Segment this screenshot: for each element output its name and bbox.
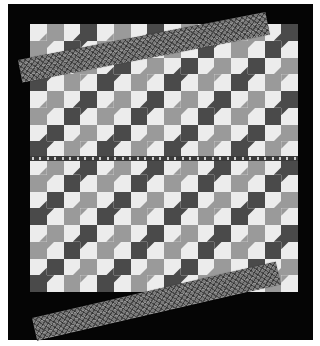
- bow-tie-patch: [30, 175, 47, 192]
- bow-tie-patch: [164, 108, 181, 125]
- bow-tie-patch: [214, 58, 231, 75]
- bow-tie-corner: [140, 268, 148, 276]
- bow-tie-corner: [181, 108, 189, 116]
- light-patch: [131, 259, 148, 276]
- bow-tie-corner: [80, 74, 88, 82]
- bow-tie-corner: [73, 201, 81, 209]
- ruler-tick: [107, 157, 109, 160]
- light-patch: [164, 125, 181, 142]
- light-patch: [147, 108, 164, 125]
- bow-tie-patch: [265, 242, 282, 259]
- bow-tie-patch: [198, 208, 215, 225]
- bow-tie-corner: [73, 134, 81, 142]
- bow-tie-corner: [214, 108, 222, 116]
- light-patch: [147, 175, 164, 192]
- bow-tie-corner: [248, 175, 256, 183]
- bow-tie-patch: [47, 91, 64, 108]
- light-patch: [47, 275, 64, 292]
- bow-tie-patch: [214, 125, 231, 142]
- bow-tie-corner: [207, 268, 215, 276]
- light-patch: [30, 192, 47, 209]
- ruler-tick: [264, 157, 266, 160]
- light-patch: [131, 125, 148, 142]
- bow-tie-corner: [73, 167, 81, 175]
- bow-tie-corner: [207, 167, 215, 175]
- light-patch: [114, 242, 131, 259]
- ruler-tick: [62, 157, 64, 160]
- bow-tie-corner: [47, 175, 55, 183]
- ruler-tick: [92, 157, 94, 160]
- bow-tie-corner: [114, 208, 122, 216]
- bow-tie-corner: [181, 141, 189, 149]
- bow-tie-patch: [147, 125, 164, 142]
- light-patch: [281, 208, 298, 225]
- bow-tie-corner: [140, 67, 148, 75]
- bow-tie-corner: [147, 208, 155, 216]
- light-patch: [97, 91, 114, 108]
- light-patch: [97, 24, 114, 41]
- light-patch: [97, 259, 114, 276]
- bow-tie-corner: [281, 275, 289, 283]
- light-patch: [64, 225, 81, 242]
- bow-tie-corner: [47, 108, 55, 116]
- bow-tie-patch: [231, 74, 248, 91]
- bow-tie-corner: [248, 108, 256, 116]
- light-patch: [214, 208, 231, 225]
- bow-tie-patch: [164, 242, 181, 259]
- bow-tie-patch: [131, 275, 148, 292]
- bow-tie-patch: [248, 125, 265, 142]
- bow-tie-corner: [106, 134, 114, 142]
- bow-tie-patch: [231, 175, 248, 192]
- light-patch: [80, 208, 97, 225]
- light-patch: [198, 125, 215, 142]
- light-patch: [131, 225, 148, 242]
- light-patch: [265, 58, 282, 75]
- bow-tie-corner: [140, 201, 148, 209]
- bow-tie-patch: [64, 275, 81, 292]
- light-patch: [265, 225, 282, 242]
- bow-tie-corner: [80, 208, 88, 216]
- bow-tie-corner: [181, 242, 189, 250]
- light-patch: [231, 125, 248, 142]
- light-patch: [164, 225, 181, 242]
- bow-tie-patch: [181, 192, 198, 209]
- ruler-tick: [249, 157, 251, 160]
- bow-tie-patch: [131, 208, 148, 225]
- light-patch: [281, 41, 298, 58]
- ruler-tick: [114, 157, 116, 160]
- light-patch: [198, 192, 215, 209]
- bow-tie-corner: [281, 74, 289, 82]
- bow-tie-corner: [281, 208, 289, 216]
- ruler-tick: [47, 157, 49, 160]
- bow-tie-patch: [164, 74, 181, 91]
- bow-tie-patch: [214, 91, 231, 108]
- ruler-tick: [32, 157, 34, 160]
- light-patch: [114, 208, 131, 225]
- light-patch: [164, 259, 181, 276]
- bow-tie-patch: [281, 58, 298, 75]
- bow-tie-patch: [265, 208, 282, 225]
- bow-tie-corner: [114, 141, 122, 149]
- light-patch: [80, 242, 97, 259]
- bow-tie-patch: [265, 175, 282, 192]
- bow-tie-corner: [106, 201, 114, 209]
- light-patch: [64, 125, 81, 142]
- light-patch: [214, 242, 231, 259]
- bow-tie-corner: [39, 268, 47, 276]
- light-patch: [47, 242, 64, 259]
- bow-tie-patch: [80, 91, 97, 108]
- bow-tie-corner: [39, 201, 47, 209]
- bow-tie-corner: [274, 167, 282, 175]
- bow-tie-corner: [140, 100, 148, 108]
- bow-tie-corner: [173, 134, 181, 142]
- bow-tie-corner: [207, 67, 215, 75]
- bow-tie-patch: [47, 24, 64, 41]
- bow-tie-corner: [274, 33, 282, 41]
- bow-tie-patch: [131, 108, 148, 125]
- bow-tie-patch: [231, 242, 248, 259]
- ruler-tick: [182, 157, 184, 160]
- bow-tie-patch: [80, 225, 97, 242]
- bow-tie-corner: [73, 234, 81, 242]
- bow-tie-corner: [281, 141, 289, 149]
- ruler-tick: [167, 157, 169, 160]
